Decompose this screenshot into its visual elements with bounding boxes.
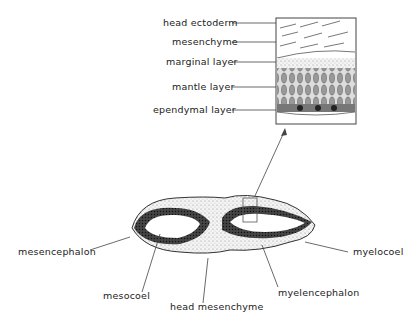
label-mantle-layer: mantle layer: [172, 81, 235, 92]
inset-leader-lines: [232, 23, 276, 110]
label-ependymal-layer: ependymal layer: [153, 104, 236, 115]
label-mesenchyme: mesenchyme: [172, 36, 238, 47]
label-myelencephalon: myelencephalon: [278, 287, 359, 298]
label-mesencephalon: mesencephalon: [18, 246, 96, 257]
label-head-mesenchyme: head mesenchyme: [170, 301, 264, 312]
brain-section: [132, 195, 315, 253]
label-myelocoel: myelocoel: [353, 246, 404, 257]
histology-inset: [276, 18, 356, 124]
zoom-arrow: [254, 128, 287, 198]
diagram-canvas: [0, 0, 418, 331]
label-mesocoel: mesocoel: [103, 290, 150, 301]
label-head-ectoderm: head ectoderm: [163, 17, 238, 28]
label-marginal-layer: marginal layer: [166, 56, 238, 67]
